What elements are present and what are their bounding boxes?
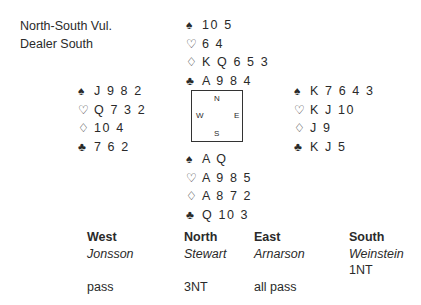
east-spades: K 7 6 4 3 (310, 84, 374, 98)
heart-icon: ♡ (294, 101, 310, 120)
north-hand: ♠10 5 ♡6 4 ♢K Q 6 5 3 ♣A 9 8 4 (186, 16, 269, 90)
auction-column-south: South Weinstein 1NT (349, 229, 421, 279)
south-hand: ♠A Q ♡A 9 8 5 ♢A 8 7 2 ♣Q 10 3 (186, 150, 252, 224)
north-spades: 10 5 (202, 18, 233, 32)
heart-icon: ♡ (78, 101, 94, 120)
dealer-label: Dealer South (20, 35, 112, 53)
call (254, 262, 349, 279)
call: pass (87, 279, 182, 296)
diamond-icon: ♢ (78, 119, 94, 138)
player-name: Weinstein (349, 246, 421, 263)
player-name: Arnarson (254, 246, 349, 263)
diamond-icon: ♢ (294, 119, 310, 138)
spade-icon: ♠ (78, 82, 94, 101)
north-diamonds: K Q 6 5 3 (202, 55, 269, 69)
player-name: Jonsson (87, 246, 182, 263)
seat-header: South (349, 229, 421, 246)
heart-icon: ♡ (186, 169, 202, 188)
east-hand: ♠K 7 6 4 3 ♡K J 10 ♢J 9 ♣K J 5 (294, 82, 374, 156)
compass-box: N W E S (191, 90, 243, 142)
auction-column-west: West Jonsson pass (87, 229, 182, 295)
vulnerability-label: North-South Vul. (20, 17, 112, 35)
west-diamonds: 10 4 (94, 121, 125, 135)
call (87, 262, 182, 279)
compass-west: W (196, 111, 204, 120)
south-spades: A Q (202, 152, 228, 166)
spade-icon: ♠ (294, 82, 310, 101)
north-clubs: A 9 8 4 (202, 74, 252, 88)
diamond-icon: ♢ (186, 53, 202, 72)
east-clubs: K J 5 (310, 140, 347, 154)
spade-icon: ♠ (186, 150, 202, 169)
heart-icon: ♡ (186, 35, 202, 54)
south-clubs: Q 10 3 (202, 208, 249, 222)
club-icon: ♣ (186, 72, 202, 91)
diamond-icon: ♢ (186, 187, 202, 206)
east-diamonds: J 9 (310, 121, 331, 135)
auction-column-east: East Arnarson all pass (254, 229, 349, 295)
call: 1NT (349, 262, 421, 279)
east-hearts: K J 10 (310, 103, 355, 117)
west-clubs: 7 6 2 (94, 140, 130, 154)
compass-north: N (214, 94, 220, 103)
club-icon: ♣ (294, 138, 310, 157)
south-diamonds: A 8 7 2 (202, 189, 252, 203)
club-icon: ♣ (78, 138, 94, 157)
south-hearts: A 9 8 5 (202, 171, 252, 185)
west-hearts: Q 7 3 2 (94, 103, 146, 117)
seat-header: West (87, 229, 182, 246)
west-hand: ♠J 9 8 2 ♡Q 7 3 2 ♢10 4 ♣7 6 2 (78, 82, 146, 156)
club-icon: ♣ (186, 206, 202, 225)
north-hearts: 6 4 (202, 37, 224, 51)
spade-icon: ♠ (186, 16, 202, 35)
call: all pass (254, 279, 349, 296)
compass-south: S (214, 129, 219, 138)
seat-header: East (254, 229, 349, 246)
compass-east: E (234, 111, 239, 120)
deal-info: North-South Vul. Dealer South (20, 17, 112, 53)
west-spades: J 9 8 2 (94, 84, 143, 98)
